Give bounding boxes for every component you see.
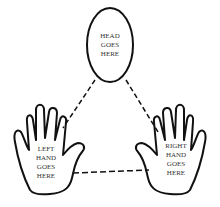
left-hand-label-line: HERE <box>30 172 62 181</box>
head-label-line: GOES <box>92 41 128 50</box>
connector-head-left <box>63 80 95 128</box>
head-label-line: HEAD <box>92 32 128 41</box>
left-hand-label-line: GOES <box>30 163 62 172</box>
head-label-line: HERE <box>92 50 128 59</box>
left-hand-label-line: LEFT <box>30 145 62 154</box>
right-hand-label-line: HERE <box>159 169 193 178</box>
right-hand-label-line: GOES <box>159 160 193 169</box>
left-hand-label-line: HAND <box>30 154 62 163</box>
right-hand-label-line: RIGHT <box>159 142 193 151</box>
connector-left-right <box>73 170 149 173</box>
head-label: HEAD GOES HERE <box>92 32 128 59</box>
right-hand-label-line: HAND <box>159 151 193 160</box>
left-hand-label: LEFT HAND GOES HERE <box>30 145 62 181</box>
right-hand-label: RIGHT HAND GOES HERE <box>159 142 193 178</box>
